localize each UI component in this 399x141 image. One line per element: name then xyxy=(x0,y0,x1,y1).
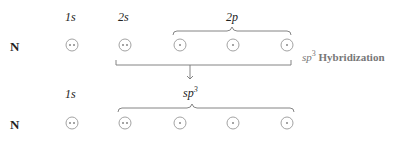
label-sp3: sp3 xyxy=(183,86,198,99)
sp-superscript: 3 xyxy=(194,85,198,94)
caption-sp: sp xyxy=(302,51,312,63)
caption-sup: 3 xyxy=(312,49,316,58)
orbital-graphics xyxy=(0,0,399,141)
caption-text: Hybridization xyxy=(319,51,385,63)
element-n-row1: N xyxy=(10,40,19,53)
sp3-hybridization-diagram: 1s 2s 2p N 1s sp3 N sp3 Hybridization xyxy=(0,0,399,141)
label-1s-row2: 1s xyxy=(65,88,76,100)
caption: sp3 Hybridization xyxy=(302,50,385,63)
sp-text: sp xyxy=(183,86,194,100)
label-1s-row1: 1s xyxy=(65,11,76,23)
label-2p: 2p xyxy=(226,11,238,23)
label-2s: 2s xyxy=(118,11,129,23)
element-n-row2: N xyxy=(10,118,19,131)
